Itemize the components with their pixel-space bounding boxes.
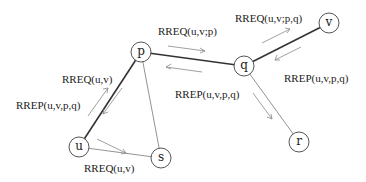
label-rreq-q-v: RREQ(u,v;p,q)	[235, 12, 303, 25]
edge-u-s	[79, 147, 161, 158]
node-p: p	[131, 42, 151, 62]
node-s: s	[151, 148, 171, 168]
node-q-label: q	[240, 58, 248, 72]
node-u: u	[69, 137, 89, 157]
node-u-label: u	[75, 139, 83, 153]
label-rreq-p-q: RREQ(u,v;p)	[158, 25, 217, 38]
routing-diagram: RREQ(u,v) RREP(u,v,p,q) RREQ(u,v) RREQ(u…	[0, 0, 366, 182]
node-v-label: v	[325, 15, 333, 29]
label-rrep-p-u: RREP(u,v,p,q)	[16, 99, 81, 112]
node-q: q	[234, 56, 254, 76]
label-rrep-v-q: RREP(u,v,p,q)	[284, 72, 349, 85]
label-rreq-u-p: RREQ(u,v)	[62, 73, 113, 86]
label-rrep-q-p: RREP(u,v,p,q)	[175, 88, 240, 101]
arrow-rrep-q-to-p	[166, 64, 202, 72]
node-p-label: p	[137, 44, 145, 58]
edge-p-q	[141, 52, 244, 66]
arrow-q-to-r	[253, 93, 272, 119]
arrow-rreq-p-to-q	[168, 46, 205, 53]
node-r-label: r	[296, 134, 302, 148]
node-v: v	[319, 13, 339, 33]
edge-q-v	[244, 23, 329, 66]
arrow-rreq-q-to-v	[262, 28, 290, 43]
arrow-rrep-p-to-u	[103, 88, 122, 114]
label-rreq-u-s: RREQ(u,v)	[84, 162, 135, 175]
edge-p-u	[79, 52, 141, 147]
node-r: r	[289, 132, 309, 152]
node-s-label: s	[158, 150, 164, 164]
edge-p-s	[141, 52, 161, 158]
